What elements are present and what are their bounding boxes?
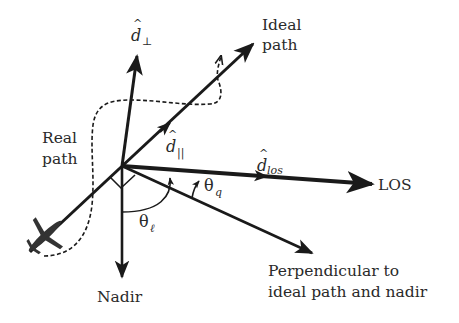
theta-q-arc	[192, 181, 199, 198]
d-los-arrowhead	[255, 176, 267, 177]
real-path-label-line1: Real	[42, 129, 77, 147]
theta-l-arc	[122, 178, 170, 212]
los-label: LOS	[378, 176, 412, 194]
svg-text:||: ||	[177, 146, 184, 160]
theta-q-label: θ q	[204, 176, 222, 199]
nadir-label: Nadir	[97, 288, 143, 306]
d-los-label: d ^ los	[257, 147, 283, 177]
real-path-label-line2: path	[42, 150, 77, 168]
los-arrow	[122, 166, 372, 184]
perpendicular-label-line1: Perpendicular to	[268, 262, 399, 280]
d-par-label: d ^ ||	[166, 128, 184, 160]
perpendicular-label-line2: ideal path and nadir	[268, 283, 428, 301]
ideal-path-label-line1: Ideal	[262, 16, 301, 34]
sar-geometry-diagram: Ideal path Real path d ^ ⊥ d ^ || d ^ lo…	[0, 0, 459, 323]
d-perp-label: d ^ ⊥	[131, 17, 152, 48]
svg-text:θ: θ	[204, 176, 214, 195]
ideal-path-label-line2: path	[262, 36, 297, 54]
svg-text:q: q	[215, 186, 222, 199]
svg-text:los: los	[267, 164, 283, 177]
svg-text:θ: θ	[139, 212, 149, 231]
svg-text:^: ^	[168, 128, 177, 141]
svg-text:^: ^	[133, 17, 142, 30]
svg-text:ℓ: ℓ	[150, 222, 155, 235]
svg-text:⊥: ⊥	[142, 35, 152, 48]
d-perp-arrow	[122, 56, 137, 166]
svg-text:^: ^	[259, 147, 268, 160]
theta-l-label: θ ℓ	[139, 212, 155, 235]
